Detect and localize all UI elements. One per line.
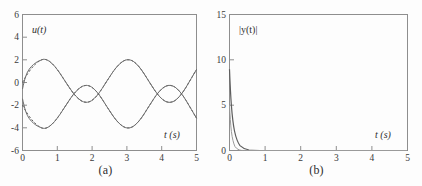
plot-a-y-ticklabels: -6 -4 -2 0 2 4 6 [11,10,19,156]
y-ticklabel: 15 [217,10,227,20]
y-ticklabel: 5 [221,100,226,110]
x-ticklabel: 1 [263,153,268,163]
plot-b-x-ticklabels: 0 1 2 3 4 5 [227,153,410,163]
curve-y-fast-decay [230,105,408,150]
y-ticklabel: 2 [14,55,19,65]
curve-u1-actual [23,59,197,102]
plot-b-svg: 0 5 10 15 0 1 2 3 4 5 [211,0,422,186]
panel-b-caption: (b) [211,163,422,178]
curve-u1-reference [23,59,197,102]
x-ticklabel: 5 [405,153,410,163]
curve-u2-actual [23,85,197,128]
y-ticklabel: -6 [11,146,19,156]
x-ticklabel: 4 [159,153,164,163]
panel-b: 0 5 10 15 0 1 2 3 4 5 [211,0,422,186]
y-ticklabel: 0 [221,146,226,156]
plot-b-y-ticklabels: 0 5 10 15 [217,10,227,156]
x-ticklabel: 0 [20,153,25,163]
plot-a-x-ticks [23,146,197,151]
plot-a-ylabel: u(t) [32,24,47,36]
x-ticklabel: 0 [227,153,232,163]
y-ticklabel: 6 [14,10,19,20]
x-ticklabel: 2 [298,153,303,163]
y-ticklabel: -4 [11,123,19,133]
x-ticklabel: 4 [370,153,375,163]
y-ticklabel: 4 [14,32,19,42]
curve-u2-reference [23,85,197,128]
x-ticklabel: 3 [125,153,130,163]
figure-container: -6 -4 -2 0 2 4 6 0 1 2 3 [0,0,422,186]
x-ticklabel: 3 [334,153,339,163]
plot-a-svg: -6 -4 -2 0 2 4 6 0 1 2 3 [0,0,211,186]
plot-a-xlabel: t (s) [164,129,181,141]
plot-a-x-ticklabels: 0 1 2 3 4 5 [20,153,199,163]
panel-a-caption: (a) [0,163,211,178]
x-ticklabel: 1 [55,153,60,163]
y-ticklabel: 10 [217,55,227,65]
panel-a: -6 -4 -2 0 2 4 6 0 1 2 3 [0,0,211,186]
y-ticklabel: -2 [11,100,19,110]
x-ticklabel: 5 [194,153,199,163]
plot-a-y-ticks [23,15,28,151]
x-ticklabel: 2 [90,153,95,163]
plot-b-ylabel: |y(t)| [239,24,257,36]
y-ticklabel: 0 [14,78,19,88]
plot-b-xlabel: t (s) [375,129,392,141]
